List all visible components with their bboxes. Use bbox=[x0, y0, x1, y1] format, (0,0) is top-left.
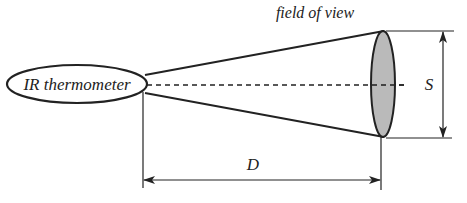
spot-size-dimension: S bbox=[386, 31, 454, 138]
d-label: D bbox=[246, 155, 260, 174]
s-label: S bbox=[425, 75, 434, 94]
field-of-view-label: field of view bbox=[276, 4, 355, 22]
cone-upper-edge bbox=[145, 31, 384, 75]
ir-thermometer-node: IR thermometer bbox=[7, 65, 147, 103]
cone-lower-edge bbox=[145, 93, 384, 137]
ir-thermometer-label: IR thermometer bbox=[22, 75, 131, 94]
fov-spot-ellipse bbox=[371, 31, 395, 137]
ir-thermometer-fov-diagram: IR thermometer field of view S D bbox=[0, 0, 467, 203]
distance-dimension: D bbox=[143, 92, 381, 190]
